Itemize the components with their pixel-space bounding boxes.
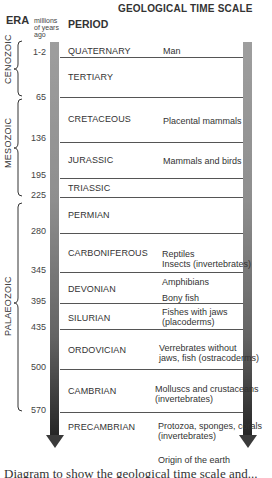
boundary-age: 395: [24, 296, 46, 306]
period-column-header: PERIOD: [68, 18, 108, 30]
period-jurassic: JURASSIC: [68, 155, 113, 165]
life-carboniferous-1: Reptiles: [162, 249, 195, 259]
life-quaternary: Man: [163, 46, 181, 56]
period-divider: [60, 329, 243, 330]
life-silurian-1: Fishes with jaws: [162, 307, 228, 317]
timeline-bar-right: [243, 42, 252, 435]
boundary-age: 435: [24, 322, 46, 332]
period-ordovician: ORDOVICIAN: [68, 345, 126, 355]
period-tertiary: TERTIARY: [68, 72, 113, 82]
boundary-age: 345: [24, 265, 46, 275]
timeline-bar-left: [50, 42, 59, 435]
era-label-mesozoic: MESOZOIC: [3, 118, 13, 168]
period-cambrian: CAMBRIAN: [68, 386, 116, 396]
life-cretaceous: Placental mammals: [163, 116, 242, 126]
life-jurassic: Mammals and birds: [163, 156, 242, 166]
boundary-age: 570: [24, 405, 46, 415]
boundary-age: 225: [24, 190, 46, 200]
boundary-age: 195: [24, 170, 46, 180]
boundary-age: 500: [24, 362, 46, 372]
era-label-cenozoic: CENOZOIC: [3, 34, 13, 84]
period-carboniferous: CARBONIFEROUS: [68, 248, 148, 258]
life-devonian-1: Amphibians: [162, 277, 209, 287]
period-triassic: TRIASSIC: [68, 183, 110, 193]
life-precambrian-1: Protozoa, sponges, corals: [158, 421, 262, 431]
period-permian: PERMIAN: [68, 210, 110, 220]
period-divider: [60, 272, 243, 273]
caption-text: Diagram to show the geological time scal…: [4, 466, 257, 478]
life-carboniferous-2: Insects (invertebrates): [162, 259, 251, 269]
life-ordovician-1: Verrebrates without: [159, 343, 237, 353]
diagram-title: GEOLOGICAL TIME SCALE: [118, 3, 253, 14]
period-divider: [60, 369, 243, 370]
life-devonian-2: Bony fish: [162, 293, 199, 303]
period-divider: [60, 303, 243, 304]
life-silurian-2: (placoderms): [162, 317, 215, 327]
period-divider: [60, 233, 243, 234]
period-divider: [60, 57, 243, 58]
boundary-age: 280: [24, 226, 46, 236]
boundary-age: 136: [24, 133, 46, 143]
life-ordovician-2: jaws, fish (ostracoderms): [159, 353, 259, 363]
origin-of-earth-label: Origin of the earth: [158, 455, 230, 465]
period-quaternary: QUATERNARY: [68, 46, 131, 56]
down-arrow-icon: [239, 435, 257, 448]
period-divider: [60, 412, 243, 413]
period-devonian: DEVONIAN: [68, 284, 116, 294]
period-divider: [60, 97, 243, 98]
era-label-palaeozoic: PALAEOZOIC: [3, 276, 13, 336]
period-divider: [60, 178, 243, 179]
period-precambrian: PRECAMBRIAN: [68, 422, 135, 432]
boundary-age: 65: [24, 92, 46, 102]
period-divider: [60, 197, 243, 198]
period-silurian: SILURIAN: [68, 313, 110, 323]
period-divider: [60, 142, 243, 143]
life-cambrian-1: Molluscs and crustaceans: [155, 384, 259, 394]
period-cretaceous: CRETACEOUS: [68, 114, 131, 124]
life-precambrian-2: (invertebrates): [158, 431, 216, 441]
boundary-age: 1-2: [24, 47, 46, 57]
life-cambrian-2: (invertebrates): [155, 394, 213, 404]
